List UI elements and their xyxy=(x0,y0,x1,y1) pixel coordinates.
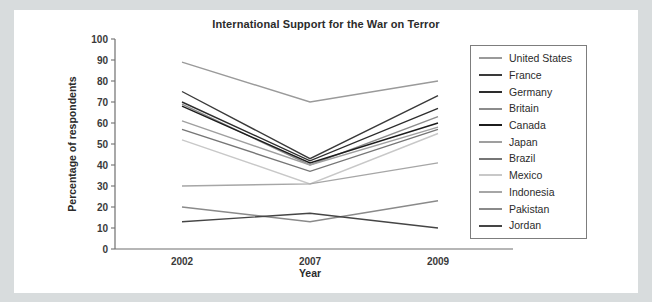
legend-swatch-britain xyxy=(479,108,502,110)
legend-item-germany: Germany xyxy=(471,87,586,98)
y-tick-label: 80 xyxy=(97,76,109,87)
legend-swatch-mexico xyxy=(479,174,502,176)
y-tick-label: 70 xyxy=(97,97,109,108)
y-tick-label: 40 xyxy=(97,160,109,171)
x-tick-label: 2002 xyxy=(171,256,194,267)
x-axis-label: Year xyxy=(299,267,321,279)
legend-label: Japan xyxy=(509,137,538,148)
legend-swatch-indonesia xyxy=(479,191,502,193)
legend-item-pakistan: Pakistan xyxy=(471,204,586,215)
y-tick-label: 60 xyxy=(97,118,109,129)
y-tick-label: 0 xyxy=(102,244,108,255)
y-tick-label: 90 xyxy=(97,55,109,66)
legend-item-japan: Japan xyxy=(471,137,586,148)
series-line-united-states xyxy=(182,62,438,102)
legend-label: Jordan xyxy=(509,220,541,231)
y-tick-label: 30 xyxy=(97,181,109,192)
legend-item-britain: Britain xyxy=(471,103,586,114)
legend-label: France xyxy=(509,70,542,81)
legend-label: United States xyxy=(509,53,572,64)
series-line-indonesia xyxy=(182,163,438,186)
legend-item-canada: Canada xyxy=(471,120,586,131)
legend-item-united-states: United States xyxy=(471,53,586,64)
legend-item-jordan: Jordan xyxy=(471,220,586,231)
legend-label: Mexico xyxy=(509,170,542,181)
legend-label: Britain xyxy=(509,103,539,114)
y-tick-label: 50 xyxy=(97,139,109,150)
legend-swatch-france xyxy=(479,74,502,76)
legend-item-mexico: Mexico xyxy=(471,170,586,181)
legend-swatch-brazil xyxy=(479,158,502,160)
legend-item-brazil: Brazil xyxy=(471,153,586,164)
legend-swatch-germany xyxy=(479,91,502,93)
legend-item-indonesia: Indonesia xyxy=(471,187,586,198)
y-tick-label: 20 xyxy=(97,202,109,213)
legend-label: Indonesia xyxy=(509,187,555,198)
y-tick-label: 10 xyxy=(97,223,109,234)
x-tick-label: 2007 xyxy=(299,256,322,267)
legend-swatch-jordan xyxy=(479,225,502,227)
legend-label: Germany xyxy=(509,87,552,98)
legend: United StatesFranceGermanyBritainCanadaJ… xyxy=(470,45,587,239)
series-line-jordan xyxy=(182,213,438,228)
legend-label: Pakistan xyxy=(509,204,549,215)
legend-swatch-pakistan xyxy=(479,208,502,210)
legend-label: Canada xyxy=(509,120,546,131)
legend-swatch-japan xyxy=(479,141,502,143)
legend-swatch-canada xyxy=(479,124,502,126)
y-tick-label: 100 xyxy=(91,34,108,45)
legend-swatch-united-states xyxy=(479,57,502,59)
legend-label: Brazil xyxy=(509,153,535,164)
x-tick-label: 2009 xyxy=(427,256,450,267)
figure-panel: International Support for the War on Ter… xyxy=(14,10,638,293)
legend-item-france: France xyxy=(471,70,586,81)
